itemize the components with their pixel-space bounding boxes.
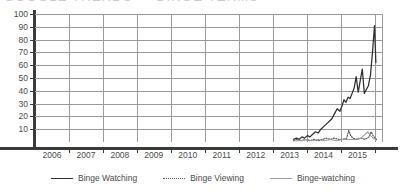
y-tick-mark-20 [30, 116, 35, 117]
plot-area [35, 14, 383, 142]
y-tick-label-20: 20 [0, 112, 28, 121]
y-tick-label-70: 70 [0, 48, 28, 57]
legend-swatch-icon [51, 178, 73, 179]
chart-title-cropped: GOOGLE TRENDS — BINGE TERMS [0, 0, 406, 7]
y-tick-label-60: 60 [0, 61, 28, 70]
y-tick-mark-30 [30, 104, 35, 105]
chart-legend: Binge WatchingBinge ViewingBinge-watchin… [0, 174, 406, 183]
y-tick-label-100: 100 [0, 10, 28, 19]
legend-item-binge-viewing[interactable]: Binge Viewing [163, 174, 244, 183]
y-tick-mark-40 [30, 91, 35, 92]
y-tick-label-90: 90 [0, 23, 28, 32]
legend-swatch-icon [270, 178, 292, 179]
y-tick-mark-60 [30, 65, 35, 66]
y-tick-mark-100 [30, 14, 35, 15]
y-tick-label-30: 30 [0, 100, 28, 109]
y-tick-mark-90 [30, 27, 35, 28]
y-tick-label-50: 50 [0, 74, 28, 83]
y-tick-label-10: 10 [0, 125, 28, 134]
legend-label: Binge Watching [78, 174, 137, 183]
legend-label: Binge-watching [297, 174, 355, 183]
x-tick-label-2015: 2015 [338, 151, 378, 160]
legend-item-binge-watching[interactable]: Binge-watching [270, 174, 355, 183]
legend-label: Binge Viewing [190, 174, 244, 183]
x-tick-mark-2015 [375, 149, 376, 153]
legend-item-binge-watching[interactable]: Binge Watching [51, 174, 137, 183]
y-tick-mark-50 [30, 78, 35, 79]
chart-container: GOOGLE TRENDS — BINGE TERMS 102030405060… [0, 0, 406, 195]
y-tick-label-80: 80 [0, 36, 28, 45]
y-tick-mark-10 [30, 129, 35, 130]
y-tick-label-40: 40 [0, 87, 28, 96]
series-lines [35, 14, 383, 142]
legend-swatch-icon [163, 178, 185, 179]
chart-title-text: GOOGLE TRENDS — BINGE TERMS [4, 0, 259, 4]
y-tick-mark-70 [30, 52, 35, 53]
series-line-binge-watching [294, 26, 376, 140]
y-tick-mark-80 [30, 40, 35, 41]
